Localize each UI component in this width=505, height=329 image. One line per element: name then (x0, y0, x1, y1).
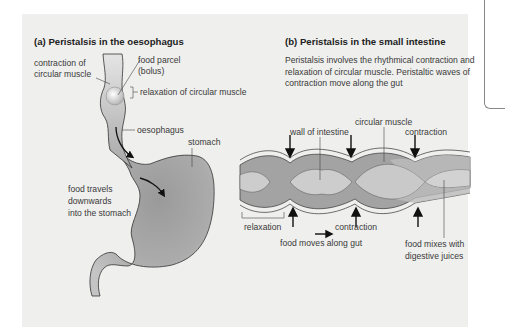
label-circular-muscle: circular muscle (355, 117, 412, 128)
label-oesophagus: oesophagus (137, 125, 184, 136)
label-contraction-bottom: contraction (335, 222, 377, 233)
panel-b-description: Peristalsis involves the rhythmical cont… (285, 55, 485, 90)
label-food-travels: food travels downwards into the stomach (68, 183, 131, 219)
label-line: food mixes with (405, 238, 464, 250)
label-food-parcel: food parcel (bolus) (138, 55, 181, 76)
label-line: food travels (68, 183, 131, 195)
label-line: digestive juices (405, 250, 464, 262)
label-relaxation-circular-muscle: relaxation of circular muscle (140, 87, 247, 98)
label-line: food parcel (138, 55, 181, 66)
label-food-moves-along-gut: food moves along gut (280, 238, 362, 249)
panel-b-title: (b) Peristalsis in the small intestine (285, 36, 445, 47)
label-line: contraction of (34, 58, 91, 69)
label-contraction-circular-muscle: contraction of circular muscle (34, 58, 91, 79)
label-line: into the stomach (68, 207, 131, 219)
small-intestine-illustration (240, 148, 470, 214)
label-line: downwards (68, 195, 131, 207)
label-stomach: stomach (188, 137, 220, 148)
label-relaxation: relaxation (244, 222, 281, 233)
label-contraction-top: contraction (405, 127, 447, 138)
panel-a-title: (a) Peristalsis in the oesophagus (34, 36, 184, 47)
label-food-mixes: food mixes with digestive juices (405, 238, 464, 262)
label-line: (bolus) (138, 66, 181, 77)
label-wall-of-intestine: wall of intestine (290, 127, 349, 138)
label-line: circular muscle (34, 69, 91, 80)
